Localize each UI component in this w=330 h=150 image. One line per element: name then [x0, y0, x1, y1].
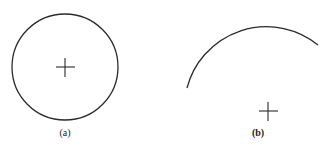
figure-b: (b) — [187, 27, 318, 139]
center-cross-icon — [56, 58, 75, 77]
center-cross-icon — [259, 102, 278, 121]
figure-a-label: (a) — [59, 127, 70, 139]
figure-canvas: (a) (b) — [0, 0, 330, 150]
circular-arc — [187, 27, 318, 88]
figure-b-label: (b) — [252, 127, 264, 139]
figure-a: (a) — [12, 14, 118, 139]
